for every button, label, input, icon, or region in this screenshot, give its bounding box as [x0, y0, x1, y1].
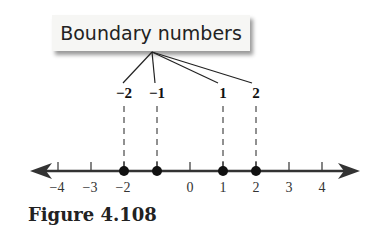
ticks	[58, 162, 322, 171]
tick-label: 4	[319, 180, 326, 196]
tick-label: 2	[253, 180, 260, 196]
boundary-label: 1	[219, 85, 227, 102]
tick-label: 3	[286, 180, 293, 196]
dashed-guides	[124, 106, 256, 167]
tick-label: −2	[116, 180, 131, 196]
boundary-label: −2	[116, 85, 132, 102]
number-line-figure	[0, 0, 392, 236]
tick-label: −4	[50, 180, 65, 196]
figure-caption: Figure 4.108	[28, 204, 157, 225]
tick-label: −3	[83, 180, 98, 196]
tick-label: 1	[220, 180, 227, 196]
tick-label: 0	[187, 180, 194, 196]
boundary-label: 2	[252, 85, 260, 102]
boundary-label: −1	[149, 85, 165, 102]
axis	[30, 163, 360, 179]
leader-lines	[123, 52, 252, 83]
